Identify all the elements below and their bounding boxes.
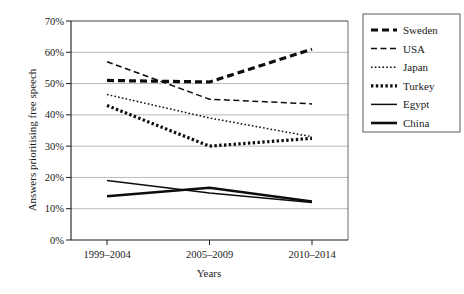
y-tick-label: 0% xyxy=(50,235,64,246)
series-line-turkey xyxy=(107,105,312,146)
y-tick-label: 10% xyxy=(45,203,65,214)
legend-label-egypt: Egypt xyxy=(403,98,429,110)
y-tick-label: 40% xyxy=(45,109,65,120)
legend-label-usa: USA xyxy=(403,43,425,55)
chart-figure: Answers prioritising free speech 0%10%20… xyxy=(0,0,464,294)
plot-frame xyxy=(71,21,348,240)
legend-label-turkey: Turkey xyxy=(403,80,435,92)
series-line-egypt xyxy=(107,181,312,203)
x-tick-label: 2005–2009 xyxy=(186,249,233,260)
x-tick-marks xyxy=(107,240,312,245)
x-tick-label: 2010–2014 xyxy=(288,249,336,260)
y-axis-title: Answers prioritising free speech xyxy=(26,68,38,211)
series-lines xyxy=(107,49,312,202)
line-chart: Answers prioritising free speech 0%10%20… xyxy=(0,0,464,294)
x-tick-label: 1999–2004 xyxy=(83,249,131,260)
x-axis-title: Years xyxy=(197,267,222,279)
y-axis-title-text: Answers prioritising free speech xyxy=(26,68,38,211)
y-tick-label: 30% xyxy=(45,141,65,152)
y-tick-label: 20% xyxy=(45,172,65,183)
series-line-japan xyxy=(107,95,312,137)
legend-label-china: China xyxy=(403,117,429,129)
y-tick-label: 50% xyxy=(45,78,65,89)
legend-label-japan: Japan xyxy=(403,61,429,73)
legend-label-sweden: Sweden xyxy=(403,24,438,36)
series-line-sweden xyxy=(107,49,312,82)
y-tick-label: 70% xyxy=(45,16,65,27)
x-tick-labels: 1999–20042005–20092010–2014 xyxy=(83,249,336,260)
legend: SwedenUSAJapanTurkeyEgyptChina xyxy=(363,14,460,132)
y-tick-labels: 0%10%20%30%40%50%60%70% xyxy=(45,16,65,246)
y-tick-label: 60% xyxy=(45,47,65,58)
y-tick-marks xyxy=(66,21,71,240)
